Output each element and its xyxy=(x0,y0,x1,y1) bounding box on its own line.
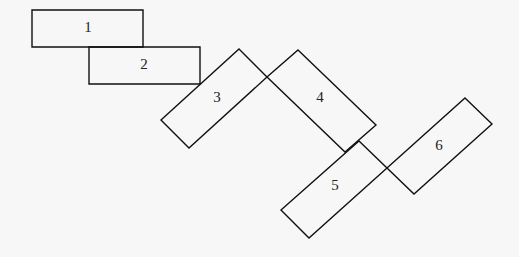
rect-5: 5 xyxy=(281,141,387,238)
rect-1: 1 xyxy=(32,10,143,47)
rect-5-label: 5 xyxy=(331,177,339,193)
rect-2-label: 2 xyxy=(140,56,148,72)
rect-4: 4 xyxy=(267,50,376,152)
rect-3: 3 xyxy=(161,49,267,148)
rect-4-label: 4 xyxy=(316,89,324,105)
rect-2: 2 xyxy=(89,47,200,84)
rect-1-label: 1 xyxy=(84,19,92,35)
rect-3-label: 3 xyxy=(213,89,221,105)
rect-6-label: 6 xyxy=(435,137,443,153)
rect-6: 6 xyxy=(387,98,492,194)
domino-diagram: 1 2 3 4 5 6 xyxy=(0,0,519,257)
